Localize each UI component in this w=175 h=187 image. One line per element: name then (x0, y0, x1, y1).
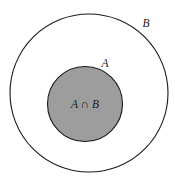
venn-diagram-canvas: B A A ∩ B (0, 0, 175, 187)
set-b-label: B (142, 17, 149, 29)
intersection-label: A ∩ B (70, 98, 99, 110)
venn-diagram: B A A ∩ B (0, 0, 175, 187)
set-a-label: A (100, 57, 109, 69)
